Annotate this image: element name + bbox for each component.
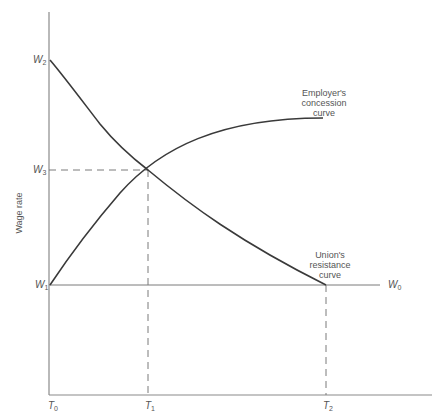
employer-label-line2: concession (284, 98, 364, 108)
union-label-line2: resistance (290, 260, 370, 270)
t1-label: T1 (145, 401, 155, 414)
w1-label: W1 (35, 280, 48, 293)
t0-label: T0 (48, 401, 58, 414)
employer-curve-label: Employer's concession curve (284, 88, 364, 118)
w3-label: W3 (33, 165, 46, 178)
bargaining-diagram (0, 0, 444, 420)
t2-label: T2 (323, 401, 333, 414)
w2-label: W2 (33, 55, 46, 68)
union-label-line1: Union's (290, 250, 370, 260)
union-curve-label: Union's resistance curve (290, 250, 370, 280)
employer-concession-curve (50, 118, 323, 285)
w0-label: W0 (388, 280, 401, 293)
employer-label-line1: Employer's (284, 88, 364, 98)
y-axis-title: Wage rate (14, 192, 24, 233)
union-label-line3: curve (290, 270, 370, 280)
employer-label-line3: curve (284, 108, 364, 118)
